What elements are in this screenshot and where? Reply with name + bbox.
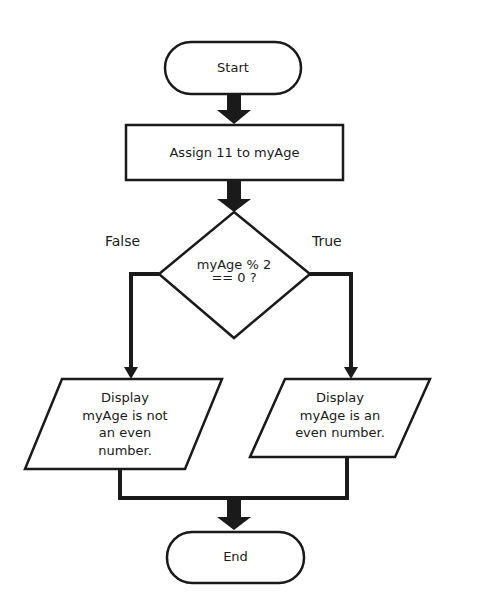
false-branch-label: False: [105, 233, 140, 249]
true-output-line-3: even number.: [275, 424, 405, 442]
start-label: Start: [165, 60, 301, 76]
false-branch-line: [131, 274, 159, 370]
end-label: End: [167, 549, 304, 565]
false-output-line-2: myAge is not: [60, 407, 190, 425]
true-output-label: Display myAge is an even number.: [275, 389, 405, 442]
false-output-line-4: number.: [60, 442, 190, 460]
assign-label: Assign 11 to myAge: [126, 145, 343, 161]
false-output-line-3: an even: [60, 424, 190, 442]
arrow-merge-to-end: [217, 498, 251, 530]
arrow-assign-to-decision: [217, 180, 251, 212]
decision-line-2: == 0 ?: [170, 271, 298, 284]
false-output-label: Display myAge is not an even number.: [60, 389, 190, 459]
true-branch-line: [310, 274, 351, 370]
true-output-line-1: Display: [275, 389, 405, 407]
decision-label: myAge % 2 == 0 ?: [170, 258, 298, 284]
true-branch-label: True: [312, 233, 342, 249]
true-output-line-2: myAge is an: [275, 407, 405, 425]
flowchart-canvas: [0, 0, 481, 616]
false-output-line-1: Display: [60, 389, 190, 407]
arrow-start-to-assign: [217, 94, 251, 124]
